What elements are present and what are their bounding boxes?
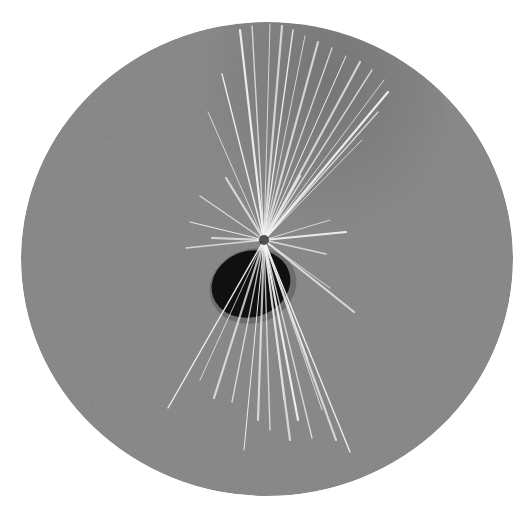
micrograph-scene [0,0,530,511]
spine-hub [259,235,269,245]
